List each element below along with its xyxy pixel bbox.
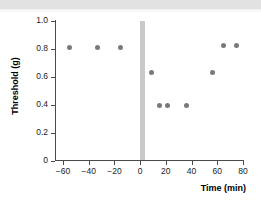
x-tick-mark: [192, 161, 193, 165]
x-axis-line: [55, 160, 244, 161]
top-banner-strip: [0, 0, 261, 9]
y-tick-label: 0.6: [22, 72, 48, 81]
x-tick-mark: [243, 161, 244, 165]
y-tick-label: 0: [22, 156, 48, 165]
x-tick-mark: [166, 161, 167, 165]
x-tick-label: −40: [76, 167, 102, 176]
x-tick-mark: [217, 161, 218, 165]
y-tick-mark: [51, 105, 55, 106]
x-tick-mark: [114, 161, 115, 165]
x-tick-mark: [140, 161, 141, 165]
data-point: [149, 70, 154, 75]
y-tick-mark: [51, 21, 55, 22]
x-tick-label: 60: [204, 167, 230, 176]
data-point: [157, 103, 162, 108]
x-axis-title: Time (min): [150, 183, 246, 193]
stimulus-band: [140, 21, 145, 161]
y-axis-title: Threshold (g): [10, 41, 20, 131]
y-tick-label: 0.2: [22, 128, 48, 137]
x-tick-label: −60: [50, 167, 76, 176]
plot-area: 00.20.40.60.81.0 −60−40−20020406080 Thre…: [0, 13, 261, 202]
y-tick-mark: [51, 161, 55, 162]
y-tick-label: 0.8: [22, 44, 48, 53]
data-point: [221, 43, 226, 48]
data-point: [165, 103, 170, 108]
data-point: [67, 45, 72, 50]
y-tick-label: 1.0: [22, 16, 48, 25]
x-tick-mark: [63, 161, 64, 165]
data-point: [210, 70, 215, 75]
x-tick-label: 0: [127, 167, 153, 176]
y-axis-line: [55, 20, 56, 161]
figure-panel: 00.20.40.60.81.0 −60−40−20020406080 Thre…: [0, 13, 261, 202]
x-tick-label: 40: [179, 167, 205, 176]
x-tick-label: 20: [153, 167, 179, 176]
data-point: [234, 43, 239, 48]
data-point: [95, 45, 100, 50]
x-tick-label: 80: [230, 167, 256, 176]
y-tick-mark: [51, 133, 55, 134]
y-tick-mark: [51, 49, 55, 50]
x-tick-label: −20: [101, 167, 127, 176]
data-point: [184, 103, 189, 108]
x-tick-mark: [89, 161, 90, 165]
y-tick-label: 0.4: [22, 100, 48, 109]
data-point: [118, 45, 123, 50]
y-tick-mark: [51, 77, 55, 78]
